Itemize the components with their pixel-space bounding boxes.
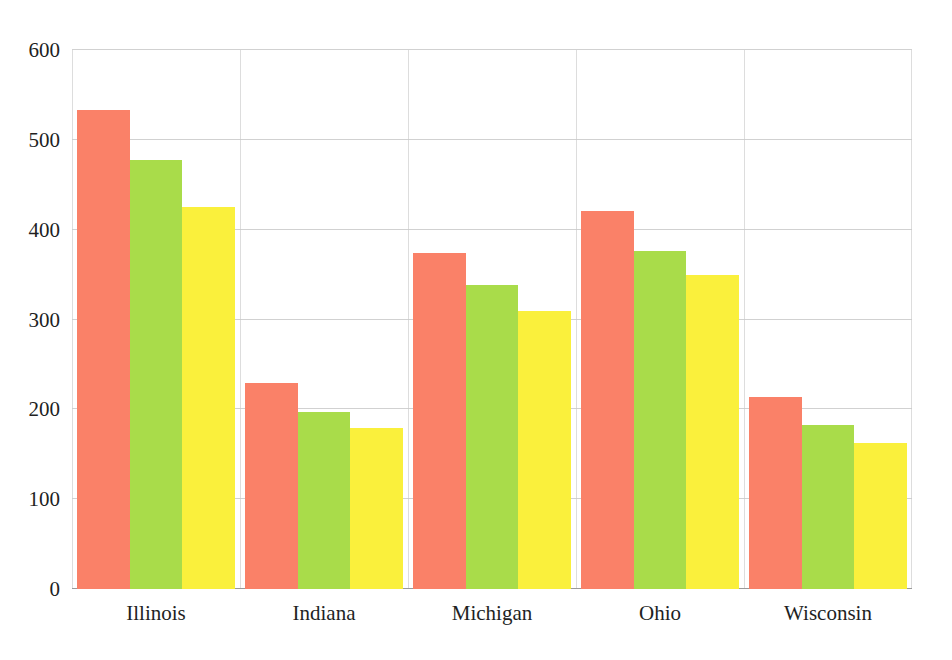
bar[interactable] bbox=[686, 275, 738, 589]
bar[interactable] bbox=[466, 285, 518, 589]
x-tick-label-michigan: Michigan bbox=[452, 603, 532, 624]
bar[interactable] bbox=[749, 397, 801, 589]
y-tick-label: 600 bbox=[0, 40, 60, 61]
bar[interactable] bbox=[518, 311, 570, 589]
bar[interactable] bbox=[634, 251, 686, 589]
bar[interactable] bbox=[413, 253, 465, 589]
y-tick-label: 400 bbox=[0, 219, 60, 240]
x-tick-label-indiana: Indiana bbox=[293, 603, 356, 624]
y-tick-label: 300 bbox=[0, 309, 60, 330]
x-tick-label-ohio: Ohio bbox=[639, 603, 681, 624]
y-tick-label: 500 bbox=[0, 129, 60, 150]
bar[interactable] bbox=[802, 425, 854, 589]
y-tick-label: 200 bbox=[0, 399, 60, 420]
bar[interactable] bbox=[182, 207, 234, 589]
x-tick-label-illinois: Illinois bbox=[126, 603, 186, 624]
plot-area bbox=[72, 50, 912, 589]
bar[interactable] bbox=[130, 160, 182, 589]
bar[interactable] bbox=[854, 443, 906, 589]
bar[interactable] bbox=[581, 211, 633, 589]
x-tick-label-wisconsin: Wisconsin bbox=[784, 603, 872, 624]
bars-layer bbox=[72, 50, 912, 589]
bar[interactable] bbox=[350, 428, 402, 589]
y-tick-label: 100 bbox=[0, 489, 60, 510]
bar-chart: 0100200300400500600 IllinoisIndianaMichi… bbox=[0, 0, 952, 660]
bar[interactable] bbox=[298, 412, 350, 589]
bar[interactable] bbox=[77, 110, 129, 589]
y-tick-label: 0 bbox=[0, 579, 60, 600]
bar[interactable] bbox=[245, 383, 297, 589]
